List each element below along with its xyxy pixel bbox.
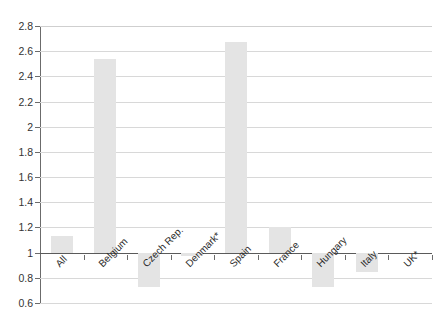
y-tick-label: 1.4 xyxy=(0,197,33,208)
x-tick-mark xyxy=(171,255,172,260)
x-tick-mark xyxy=(301,255,302,260)
gridline xyxy=(40,26,432,27)
y-tick-label: 1.8 xyxy=(0,147,33,158)
gridline xyxy=(40,303,432,304)
x-tick-mark xyxy=(345,255,346,260)
x-tick-mark xyxy=(432,255,433,260)
bar xyxy=(51,236,73,252)
y-tick-label: 2.6 xyxy=(0,46,33,57)
bar xyxy=(225,42,247,252)
x-tick-mark xyxy=(127,255,128,260)
x-tick-mark xyxy=(214,255,215,260)
x-tick-mark xyxy=(258,255,259,260)
x-tick-mark xyxy=(84,255,85,260)
y-tick-label: 1.6 xyxy=(0,172,33,183)
x-tick-mark xyxy=(40,255,41,260)
y-tick-label: 0.6 xyxy=(0,298,33,309)
gridline xyxy=(40,278,432,279)
bar-chart: 2.82.62.42.221.81.61.41.210.80.6 AllBelg… xyxy=(0,0,445,319)
y-tick-label: 2.2 xyxy=(0,97,33,108)
y-tick-label: 2.8 xyxy=(0,21,33,32)
x-tick-mark xyxy=(388,255,389,260)
bar xyxy=(94,59,116,253)
y-tick-label: 2 xyxy=(0,122,33,133)
y-tick-label: 2.4 xyxy=(0,71,33,82)
y-tick-label: 1 xyxy=(0,248,33,259)
y-tick-label: 1.2 xyxy=(0,222,33,233)
y-tick-label: 0.8 xyxy=(0,273,33,284)
